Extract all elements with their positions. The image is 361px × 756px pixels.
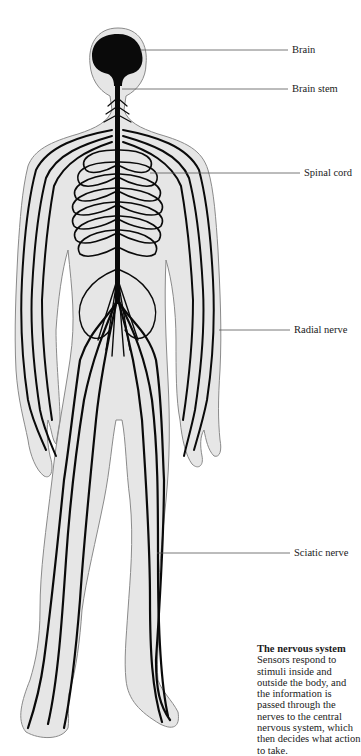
label-brain-stem: Brain stem (292, 83, 338, 95)
caption-title: The nervous system (257, 643, 361, 654)
label-spinal-cord: Spinal cord (304, 167, 352, 179)
caption-body: Sensors respond to stimuli inside and ou… (257, 654, 361, 755)
spinal-cord-shape (115, 84, 120, 304)
label-brain: Brain (292, 44, 315, 56)
label-radial-nerve: Radial nerve (294, 324, 347, 336)
label-sciatic-nerve: Sciatic nerve (294, 547, 349, 559)
caption: The nervous system Sensors respond to st… (257, 643, 361, 756)
